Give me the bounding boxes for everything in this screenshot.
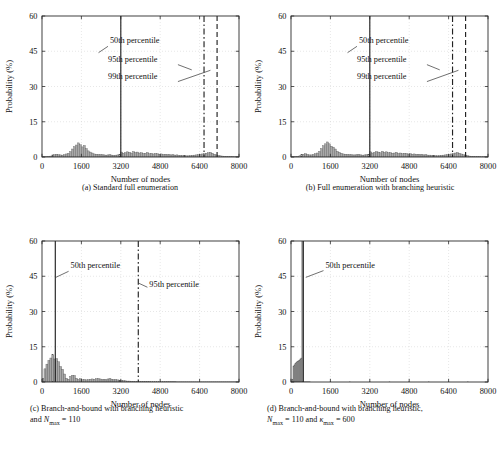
annotations-a: 50th percentile95th percentile99th perce… [99, 36, 211, 81]
xtick-label: 0 [289, 387, 293, 396]
histogram-bar [405, 153, 407, 157]
histogram-bar [323, 146, 325, 157]
annotations-b: 50th percentile95th percentile99th perce… [348, 36, 459, 81]
xtick-label: 6400 [191, 162, 208, 171]
histogram-bar [56, 359, 58, 383]
histogram-bar [125, 153, 127, 157]
histogram-bar [372, 153, 374, 157]
panel-c-caption: (c) Branch-and-bound with branching heur… [14, 403, 258, 429]
histogram-bar [66, 154, 68, 157]
annotation-label: 50th percentile [71, 261, 121, 270]
panel-b-caption: (b) Full enumeration with branching heur… [265, 182, 495, 193]
histogram-bar [135, 153, 137, 157]
histogram-bar [50, 358, 52, 382]
histogram-bar [388, 153, 390, 157]
annotations-d: 50th percentile [306, 261, 376, 277]
histogram-bar [144, 153, 146, 157]
ytick-label: 0 [282, 153, 286, 162]
histogram-bar [150, 153, 152, 157]
histogram-bar [401, 154, 403, 157]
xtick-label: 4800 [152, 162, 169, 171]
histogram-bar [44, 369, 46, 382]
histogram-bar [413, 154, 415, 157]
plot-border [291, 241, 488, 382]
histogram-bar [390, 153, 392, 157]
xtick-label: 8000 [231, 162, 248, 171]
histogram-bar [342, 154, 344, 157]
histogram-bar [209, 152, 211, 157]
annotation-leader-line [178, 70, 211, 81]
histogram-bar [384, 152, 386, 157]
histogram-bar [319, 151, 321, 157]
annotation-label: 50th percentile [110, 36, 160, 45]
histogram-bar [395, 152, 397, 157]
histogram-bar [152, 154, 154, 157]
histogram-bar [60, 366, 62, 382]
panel-c: 016003200480064008000015304560Number of … [0, 225, 250, 451]
xtick-label: 3200 [362, 162, 379, 171]
y-axis-label: Probability (%) [253, 60, 263, 113]
annotation-leader-line [306, 271, 324, 278]
ytick-label: 30 [278, 83, 286, 92]
xtick-label: 6400 [191, 387, 208, 396]
xtick-label: 3200 [113, 387, 130, 396]
ytick-label: 15 [278, 343, 286, 352]
xtick-label: 8000 [231, 387, 248, 396]
histogram-bar [154, 153, 156, 157]
annotation-label: 50th percentile [359, 36, 409, 45]
histogram-bar [139, 153, 141, 157]
annotation-leader-line [348, 46, 357, 52]
xtick-label: 3200 [362, 387, 379, 396]
annotation-label: 95th percentile [149, 280, 199, 289]
ytick-label: 0 [33, 153, 37, 162]
histogram-bar [376, 152, 378, 157]
histogram-bar [46, 364, 48, 382]
xtick-label: 1600 [73, 387, 90, 396]
annotation-label: 95th percentile [108, 55, 158, 64]
histogram-bar [52, 355, 54, 382]
histogram-bar [75, 145, 77, 157]
bars-c [42, 355, 239, 383]
histogram-bar [403, 153, 405, 157]
xtick-label: 4800 [152, 387, 169, 396]
panel-c-caption-line-2: and Nmax = 110 [30, 414, 258, 429]
histogram-bar [131, 153, 133, 157]
ytick-label: 45 [278, 47, 286, 56]
ytick-label: 45 [278, 272, 286, 281]
xtick-label: 3200 [113, 162, 130, 171]
annotation-label: 99th percentile [357, 72, 407, 81]
ytick-label: 60 [278, 237, 286, 246]
annotation-label: 99th percentile [108, 72, 158, 81]
histogram-bar [66, 378, 68, 382]
histogram-bar [399, 153, 401, 157]
panel-b: 016003200480064008000015304560Number of … [249, 0, 499, 226]
panel-a-caption: (a) Standard full enumeration [18, 182, 242, 193]
ytick-label: 30 [29, 308, 37, 317]
histogram-bar [338, 152, 340, 157]
histogram-bar [211, 153, 213, 157]
ytick-label: 0 [33, 378, 37, 387]
histogram-bar [146, 153, 148, 157]
histogram-bar [68, 153, 70, 157]
histogram-bar [340, 153, 342, 157]
histogram-bar [72, 149, 74, 157]
histogram-bar [202, 154, 204, 157]
histogram-bar [109, 378, 111, 382]
xtick-label: 4800 [401, 387, 418, 396]
histogram-bar [133, 152, 135, 157]
histogram-bar [397, 153, 399, 157]
histogram-bar [89, 152, 91, 157]
ytick-label: 60 [29, 237, 37, 246]
gridlines-d [291, 241, 488, 382]
panel-b-caption-line-1: (b) Full enumeration with branching heur… [265, 182, 495, 193]
histogram-bar [336, 151, 338, 157]
histogram-bar [141, 153, 143, 157]
xtick-label: 1600 [73, 162, 90, 171]
xtick-label: 0 [40, 162, 44, 171]
histogram-bar [382, 151, 384, 157]
annotation-leader-line [178, 65, 192, 70]
histogram-bar [386, 152, 388, 157]
bars-d [291, 237, 469, 382]
histogram-bar [321, 149, 323, 157]
histogram-bar [58, 362, 60, 382]
